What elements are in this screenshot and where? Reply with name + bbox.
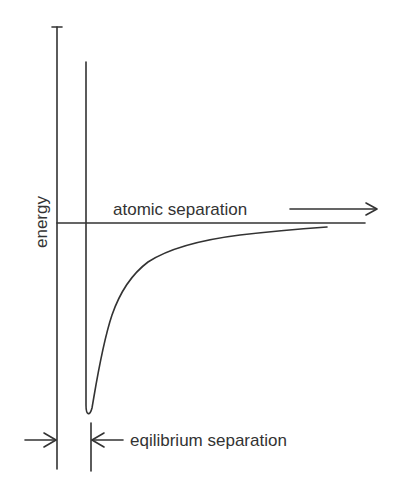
potential-energy-curve <box>86 62 327 414</box>
diagram-canvas <box>0 0 403 497</box>
equilibrium-separation-label: eqilibrium separation <box>130 432 287 449</box>
energy-axis-label: energy <box>33 196 50 248</box>
atomic-separation-label: atomic separation <box>113 201 247 218</box>
